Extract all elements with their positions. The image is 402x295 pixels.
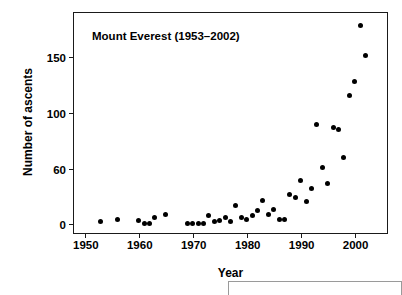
- data-point: [196, 221, 201, 226]
- data-point: [309, 186, 314, 191]
- data-point: [282, 217, 287, 222]
- data-point: [212, 219, 217, 224]
- plot-frame: Mount Everest (1953–2002) 06010015019501…: [73, 12, 388, 234]
- data-point: [298, 178, 303, 183]
- data-point: [223, 215, 228, 220]
- data-point: [277, 217, 282, 222]
- y-axis-tick-label: 60: [53, 164, 66, 176]
- data-point: [325, 181, 330, 186]
- y-axis-tick: 60: [69, 169, 74, 170]
- data-point: [363, 53, 368, 58]
- y-axis-tick: 100: [69, 113, 74, 114]
- data-point: [320, 165, 325, 170]
- data-point: [201, 221, 206, 226]
- data-point: [163, 212, 168, 217]
- data-point: [233, 203, 238, 208]
- x-axis-tick-label: 1990: [289, 239, 315, 251]
- x-axis-tick: 1990: [301, 233, 302, 238]
- data-point: [341, 155, 346, 160]
- data-point: [152, 215, 157, 220]
- data-point: [244, 217, 249, 222]
- data-point: [217, 218, 222, 223]
- data-point: [255, 208, 260, 213]
- x-axis-tick-label: 1950: [73, 239, 99, 251]
- data-point: [358, 23, 363, 28]
- y-axis-tick: 150: [69, 57, 74, 58]
- x-axis-tick-label: 1960: [127, 239, 153, 251]
- data-point: [98, 219, 103, 224]
- x-axis-tick: 1950: [85, 233, 86, 238]
- data-point: [190, 221, 195, 226]
- data-point: [250, 213, 255, 218]
- data-point: [331, 125, 336, 130]
- x-axis-tick-label: 1980: [235, 239, 261, 251]
- data-point: [266, 212, 271, 217]
- plot-area: 060100150195019601970198019902000: [74, 13, 387, 233]
- data-point: [336, 127, 341, 132]
- data-point: [287, 192, 292, 197]
- data-point: [185, 221, 190, 226]
- data-point: [147, 221, 152, 226]
- data-point: [314, 122, 319, 127]
- x-axis-title: Year: [73, 266, 388, 280]
- bottom-empty-panel: [228, 281, 402, 295]
- data-point: [304, 199, 309, 204]
- data-point: [347, 93, 352, 98]
- data-point: [239, 215, 244, 220]
- y-axis-tick-label: 150: [47, 52, 66, 64]
- x-axis-tick: 1980: [247, 233, 248, 238]
- x-axis-tick: 1970: [193, 233, 194, 238]
- x-axis-tick-label: 1970: [181, 239, 207, 251]
- data-point: [352, 79, 357, 84]
- data-point: [271, 207, 276, 212]
- data-point: [136, 218, 141, 223]
- data-point: [206, 213, 211, 218]
- data-point: [260, 198, 265, 203]
- y-axis-title: Number of ascents: [21, 42, 35, 202]
- x-axis-tick: 2000: [355, 233, 356, 238]
- y-axis-tick: 0: [69, 224, 74, 225]
- data-point: [115, 217, 120, 222]
- data-point: [142, 221, 147, 226]
- data-point: [293, 195, 298, 200]
- y-axis-tick-label: 100: [47, 108, 66, 120]
- y-axis-tick-label: 0: [60, 219, 66, 231]
- data-point: [228, 219, 233, 224]
- x-axis-tick-label: 2000: [343, 239, 369, 251]
- x-axis-tick: 1960: [139, 233, 140, 238]
